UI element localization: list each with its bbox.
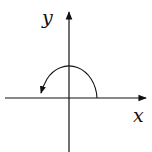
coordinate-diagram: y x [0,0,152,152]
diagram-canvas [0,0,152,152]
y-axis-label: y [42,8,53,27]
x-axis-label: x [133,106,144,125]
